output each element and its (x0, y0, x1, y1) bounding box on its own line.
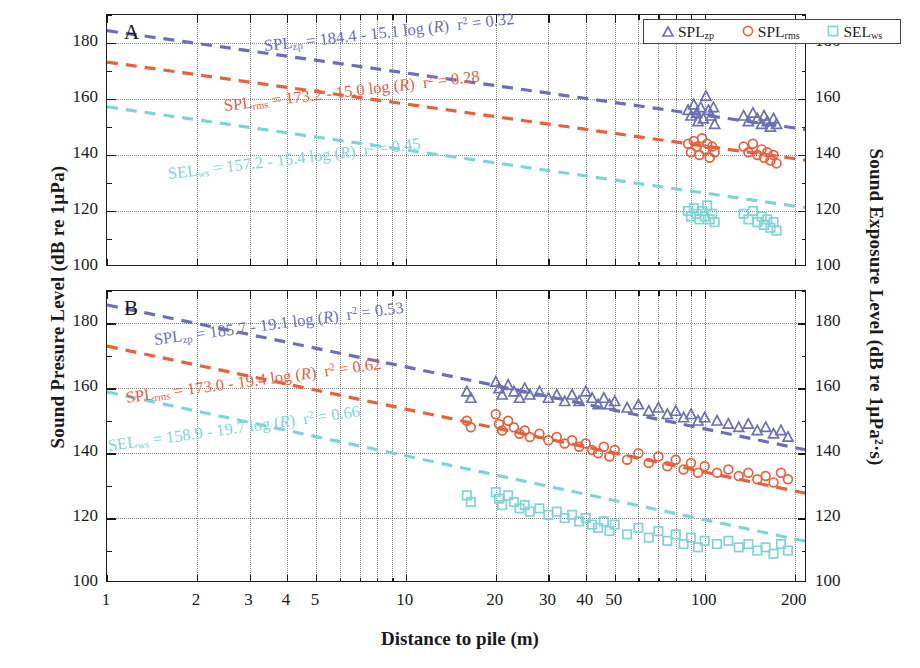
data-point-spl_rms (663, 462, 672, 471)
y-tick-label: 160 (52, 87, 98, 107)
data-point-sel_ws (763, 215, 771, 223)
y-tick-label: 100 (52, 255, 98, 275)
data-point-spl_rms (491, 410, 500, 419)
data-point-spl_zp (671, 406, 681, 415)
data-point-spl_rms (535, 429, 544, 438)
y-tick-label: 140 (815, 441, 861, 461)
data-point-spl_rms (544, 436, 553, 445)
data-point-spl_rms (525, 433, 534, 442)
data-point-spl_rms (599, 442, 608, 451)
data-point-sel_ws (753, 546, 761, 554)
data-point-spl_rms (671, 455, 680, 464)
y-tick-label: 140 (815, 143, 861, 163)
y-tick-label: 160 (815, 376, 861, 396)
data-point-spl_rms (705, 153, 714, 162)
data-point-spl_rms (462, 416, 471, 425)
data-point-sel_ws (684, 207, 692, 215)
data-point-spl_zp (772, 119, 782, 128)
x-tick-label: 10 (385, 590, 425, 610)
data-point-spl_rms (734, 472, 743, 481)
data-point-sel_ws (663, 537, 671, 545)
data-point-sel_ws (744, 540, 752, 548)
data-point-spl_zp (644, 406, 654, 415)
data-point-sel_ws (772, 226, 780, 234)
equation-series: SPLzp (263, 32, 303, 55)
data-point-spl_zp (723, 419, 733, 428)
data-point-spl_rms (739, 142, 748, 151)
data-point-sel_ws (735, 543, 743, 551)
panel-a-plot-area (107, 15, 805, 265)
data-point-spl_zp (514, 393, 524, 402)
data-point-spl_zp (633, 399, 643, 408)
data-point-spl_rms (748, 139, 757, 148)
x-tick-label: 20 (475, 590, 515, 610)
y-tick-label: 180 (52, 311, 98, 331)
data-point-spl_rms (623, 455, 632, 464)
data-point-sel_ws (645, 533, 653, 541)
x-axis-title: Distance to pile (m) (0, 628, 920, 650)
y-tick-label: 120 (815, 506, 861, 526)
x-tick-label: 1 (86, 590, 126, 610)
y-tick-label: 180 (52, 31, 98, 51)
data-point-spl_zp (776, 425, 786, 434)
data-point-sel_ws (749, 207, 757, 215)
data-point-spl_zp (466, 393, 476, 402)
legend-marker-circle (742, 23, 754, 41)
data-markers (107, 15, 805, 265)
data-point-spl_rms (698, 134, 707, 143)
equation-series: SPLzp (153, 325, 193, 349)
data-point-spl_rms (769, 478, 778, 487)
y-tick-label: 140 (52, 441, 98, 461)
y-axis-title-right: Sound Exposure Level (dB re 1µPa²·s) (865, 97, 887, 517)
data-point-spl_rms (784, 475, 793, 484)
y-tick-label: 100 (52, 571, 98, 591)
data-point-spl_zp (700, 412, 710, 421)
data-point-spl_zp (503, 380, 513, 389)
data-point-sel_ws (623, 530, 631, 538)
data-point-sel_ws (769, 218, 777, 226)
data-point-spl_rms (700, 462, 709, 471)
equation-series: SPLrms (223, 91, 269, 115)
data-point-spl_zp (593, 399, 603, 408)
data-point-spl_zp (525, 390, 535, 399)
data-point-spl_zp (622, 403, 632, 412)
data-point-spl_rms (744, 468, 753, 477)
x-tick-label: 2 (176, 590, 216, 610)
y-tick-label: 120 (52, 506, 98, 526)
data-point-spl_zp (509, 386, 519, 395)
legend-item-sel-ws: SELws (827, 23, 882, 41)
data-point-sel_ws (672, 530, 680, 538)
data-point-spl_rms (679, 465, 688, 474)
data-point-spl_rms (761, 472, 770, 481)
x-tick-label: 200 (774, 590, 814, 610)
data-point-spl_zp (587, 393, 597, 402)
data-point-spl_zp (653, 403, 663, 412)
panel-letter-a: A (124, 20, 139, 45)
data-point-sel_ws (713, 540, 721, 548)
legend-item-spl-zp: SPLzp (662, 23, 714, 41)
data-point-spl_rms (695, 151, 704, 160)
data-point-spl_rms (687, 459, 696, 468)
data-point-spl_rms (744, 148, 753, 157)
data-point-spl_zp (701, 91, 711, 100)
data-point-spl_zp (734, 422, 744, 431)
data-point-spl_rms (552, 433, 561, 442)
data-point-spl_zp (743, 419, 753, 428)
data-point-spl_zp (712, 416, 722, 425)
data-point-spl_rms (753, 475, 762, 484)
legend-marker-square (827, 23, 839, 41)
x-tick-label: 5 (295, 590, 335, 610)
panel-letter-b: B (124, 296, 138, 321)
data-point-sel_ws (724, 537, 732, 545)
data-point-spl_zp (686, 409, 696, 418)
data-point-spl_rms (654, 452, 663, 461)
x-tick-label: 3 (229, 590, 269, 610)
data-point-spl_rms (724, 465, 733, 474)
y-tick-label: 100 (815, 571, 861, 591)
data-point-sel_ws (698, 207, 706, 215)
data-point-sel_ws (535, 504, 543, 512)
y-tick-label: 160 (52, 376, 98, 396)
data-point-spl_rms (634, 449, 643, 458)
figure-root: Sound Presure Level (dB re 1µPa) Sound E… (0, 0, 920, 668)
legend-item-spl-rms: SPLrms (742, 23, 800, 41)
